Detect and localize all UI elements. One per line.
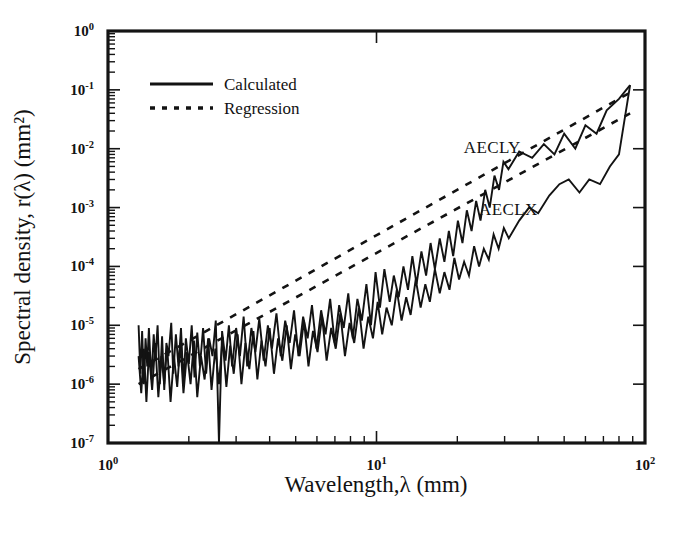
y-tick-label: 10-4 — [70, 256, 94, 274]
annotation-aeclx: AECLX — [479, 200, 538, 219]
x-axis-ticks — [108, 31, 645, 443]
plot-border — [108, 31, 645, 443]
plot-frame — [108, 31, 645, 443]
legend-label-regression: Regression — [224, 99, 300, 118]
x-tick-label: 101 — [366, 455, 386, 473]
y-tick-label: 100 — [74, 21, 94, 39]
y-axis-ticks — [108, 31, 645, 443]
x-axis-tick-labels: 100101102 — [98, 455, 655, 473]
x-tick-label: 100 — [98, 455, 118, 473]
y-axis-tick-labels: 10010-110-210-310-410-510-610-7 — [70, 21, 94, 451]
figure-canvas: 10010-110-210-310-410-510-610-7 10010110… — [0, 0, 681, 534]
series-path-aecly-regression — [139, 93, 631, 370]
y-tick-label: 10-3 — [70, 198, 94, 216]
chart-legend: Calculated Regression — [150, 75, 300, 118]
y-axis-title: Spectral density, r(λ) (mm²) — [10, 109, 35, 364]
y-tick-label: 10-1 — [70, 80, 94, 98]
annotation-aecly: AECLY — [464, 138, 521, 157]
x-axis-title: Wavelength,λ (mm) — [284, 472, 467, 497]
y-tick-label: 10-2 — [70, 139, 94, 157]
y-tick-label: 10-6 — [70, 374, 94, 392]
spectral-density-chart: 10010-110-210-310-410-510-610-7 10010110… — [0, 0, 681, 534]
y-tick-label: 10-5 — [70, 315, 94, 333]
y-tick-label: 10-7 — [70, 433, 94, 451]
series-path-aeclx-regression — [139, 113, 631, 384]
x-tick-label: 102 — [635, 455, 655, 473]
data-series-group — [139, 85, 631, 443]
legend-label-calculated: Calculated — [224, 75, 297, 94]
